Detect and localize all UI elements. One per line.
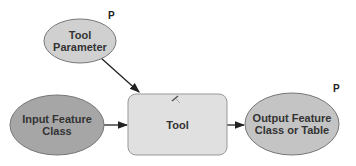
label-tool: Tool: [128, 118, 227, 132]
label-tool-parameter: Tool Parameter: [50, 28, 110, 54]
parameter-badge-tool-parameter: P: [108, 10, 115, 21]
label-output: Output Feature Class or Table: [250, 105, 334, 143]
parameter-badge-output: P: [333, 83, 340, 94]
edge-parameter-to-tool: [101, 58, 139, 92]
label-input-feature-class: Input Feature Class: [20, 112, 94, 138]
